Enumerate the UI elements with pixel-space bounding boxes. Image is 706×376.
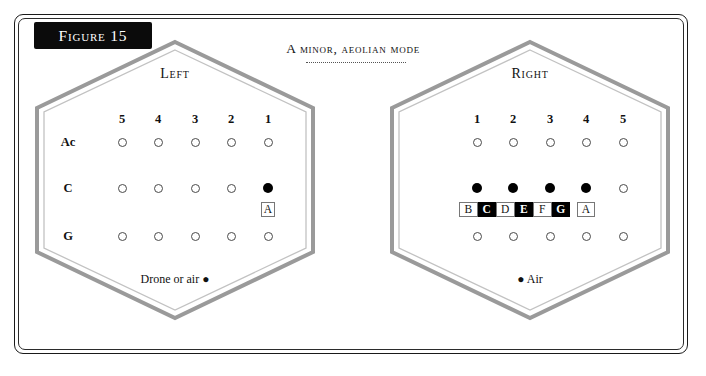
- hole-left-r2c5-open[interactable]: [118, 184, 127, 193]
- note-box-right-F: F: [533, 202, 552, 217]
- hole-left-r1c2-open[interactable]: [227, 138, 236, 147]
- panel-footer-text-right: Air: [527, 272, 543, 286]
- hole-right-r3c1-open[interactable]: [473, 232, 482, 241]
- panel-left: Left 54321AcCGA Drone or air ●: [30, 36, 320, 324]
- hole-left-r2c4-open[interactable]: [154, 184, 163, 193]
- column-number-right-1: 1: [466, 112, 488, 127]
- row-label-left-Ac: Ac: [53, 135, 83, 150]
- hole-left-r2c2-open[interactable]: [227, 184, 236, 193]
- hole-left-r3c1-open[interactable]: [264, 232, 273, 241]
- hole-right-r3c5-open[interactable]: [619, 232, 628, 241]
- hole-right-r1c2-open[interactable]: [509, 138, 518, 147]
- panel-footer-right: ● Air: [385, 272, 675, 287]
- panel-side-label-left: Left: [30, 66, 320, 82]
- hole-left-r3c3-open[interactable]: [191, 232, 200, 241]
- hole-left-r3c5-open[interactable]: [118, 232, 127, 241]
- column-number-left-1: 1: [257, 112, 279, 127]
- note-box-right-E: E: [515, 202, 534, 217]
- column-number-left-5: 5: [111, 112, 133, 127]
- hole-right-r1c4-open[interactable]: [582, 138, 591, 147]
- note-box-right-D: D: [496, 202, 515, 217]
- hole-left-r3c2-open[interactable]: [227, 232, 236, 241]
- hole-left-r1c4-open[interactable]: [154, 138, 163, 147]
- panel-right: Right 12345BCDEFGA ● Air: [385, 36, 675, 324]
- figure-number-banner: Figure 15: [34, 22, 152, 49]
- hole-right-r2c1-filled[interactable]: [472, 183, 482, 193]
- row-label-left-C: C: [53, 181, 83, 196]
- hole-left-r3c4-open[interactable]: [154, 232, 163, 241]
- panel-footer-text-left: Drone or air: [141, 272, 200, 286]
- note-box-right-A: A: [577, 202, 596, 217]
- hole-left-r1c1-open[interactable]: [264, 138, 273, 147]
- panel-footer-left: Drone or air ●: [30, 272, 320, 287]
- panel-side-label-right: Right: [385, 66, 675, 82]
- hole-right-r2c2-filled[interactable]: [508, 183, 518, 193]
- hole-right-r2c4-filled[interactable]: [581, 183, 591, 193]
- note-box-right-B: B: [459, 202, 478, 217]
- column-number-right-4: 4: [575, 112, 597, 127]
- column-number-right-2: 2: [502, 112, 524, 127]
- figure-diagram: Figure 15 A minor, aeolian mode Left 543…: [0, 0, 706, 376]
- hole-right-r1c3-open[interactable]: [546, 138, 555, 147]
- column-number-left-4: 4: [147, 112, 169, 127]
- hole-left-r2c1-filled[interactable]: [263, 183, 273, 193]
- column-number-left-3: 3: [184, 112, 206, 127]
- hole-right-r1c5-open[interactable]: [619, 138, 628, 147]
- hole-right-r3c3-open[interactable]: [546, 232, 555, 241]
- hole-right-r3c4-open[interactable]: [582, 232, 591, 241]
- panel-footer-bullet-left: ●: [202, 272, 209, 286]
- hole-left-r1c5-open[interactable]: [118, 138, 127, 147]
- hole-left-r1c3-open[interactable]: [191, 138, 200, 147]
- hole-right-r1c1-open[interactable]: [473, 138, 482, 147]
- column-number-right-3: 3: [539, 112, 561, 127]
- hole-left-r2c3-open[interactable]: [191, 184, 200, 193]
- hole-right-r2c5-open[interactable]: [619, 184, 628, 193]
- panel-footer-bullet-right: ●: [517, 272, 524, 286]
- column-number-right-5: 5: [612, 112, 634, 127]
- figure-number-label: Figure 15: [59, 28, 128, 44]
- column-number-left-2: 2: [220, 112, 242, 127]
- note-box-right-G: G: [552, 202, 571, 217]
- hole-right-r2c3-filled[interactable]: [545, 183, 555, 193]
- note-box-left-A: A: [261, 202, 275, 217]
- row-label-left-G: G: [53, 229, 83, 244]
- note-box-right-C: C: [478, 202, 497, 217]
- hole-right-r3c2-open[interactable]: [509, 232, 518, 241]
